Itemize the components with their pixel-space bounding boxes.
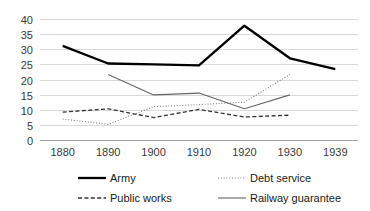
series-line-army bbox=[63, 26, 336, 69]
y-axis-tick-label: 25 bbox=[21, 59, 33, 71]
legend-label: Railway guarantee bbox=[250, 192, 341, 204]
y-axis-tick-label: 30 bbox=[21, 44, 33, 56]
chart-legend: ArmyDebt servicePublic worksRailway guar… bbox=[78, 172, 341, 204]
legend-item-debt-service[interactable]: Debt service bbox=[218, 172, 311, 184]
legend-label: Debt service bbox=[250, 172, 311, 184]
x-axis-tick-label: 1880 bbox=[50, 146, 74, 158]
x-axis-tick-label: 1939 bbox=[323, 146, 347, 158]
data-series-group bbox=[63, 26, 336, 125]
legend-item-railway-guarantee[interactable]: Railway guarantee bbox=[218, 192, 341, 204]
y-axis-tick-label: 15 bbox=[21, 90, 33, 102]
y-axis-tick-label: 0 bbox=[27, 135, 33, 147]
series-line-railway-guarantee bbox=[108, 74, 290, 108]
y-axis-tick-labels: 0510152025303540 bbox=[21, 14, 33, 147]
x-axis-tick-label: 1920 bbox=[232, 146, 256, 158]
legend-item-army[interactable]: Army bbox=[78, 172, 136, 184]
chart-canvas: 0510152025303540 18801890190019101920193… bbox=[0, 0, 370, 211]
y-axis-tick-label: 5 bbox=[27, 120, 33, 132]
y-axis-tick-label: 10 bbox=[21, 105, 33, 117]
x-axis-tick-label: 1900 bbox=[141, 146, 165, 158]
y-axis-tick-label: 35 bbox=[21, 29, 33, 41]
x-axis-tick-label: 1910 bbox=[187, 146, 211, 158]
x-axis-tick-label: 1890 bbox=[96, 146, 120, 158]
legend-label: Public works bbox=[110, 192, 172, 204]
y-axis-tick-label: 40 bbox=[21, 14, 33, 26]
line-chart: 0510152025303540 18801890190019101920193… bbox=[0, 0, 370, 211]
legend-item-public-works[interactable]: Public works bbox=[78, 192, 172, 204]
y-axis-tick-label: 20 bbox=[21, 75, 33, 87]
x-axis-tick-labels: 1880189019001910192019301939 bbox=[50, 146, 347, 158]
x-axis-tick-label: 1930 bbox=[278, 146, 302, 158]
legend-label: Army bbox=[110, 172, 136, 184]
